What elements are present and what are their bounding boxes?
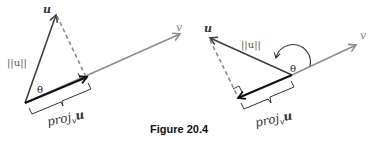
svg-text:projvu: projvu <box>46 107 86 131</box>
figure-obtuse: u v ||u|| θ projvu <box>204 22 367 132</box>
svg-text:projvu: projvu <box>254 108 294 132</box>
projection-vector <box>238 75 292 98</box>
label-u: u <box>43 3 51 16</box>
figure-caption: Figure 20.4 <box>150 123 209 135</box>
label-theta: θ <box>290 63 296 74</box>
label-norm-u: ||u|| <box>7 57 27 69</box>
label-v: v <box>176 21 183 34</box>
proj-vec: u <box>74 107 86 123</box>
proj-base: proj <box>46 110 73 129</box>
label-projection: projvu <box>46 107 86 131</box>
projection-vector <box>25 77 87 103</box>
label-u: u <box>204 22 212 35</box>
label-theta: θ <box>37 84 43 95</box>
proj-vec: u <box>282 108 294 124</box>
figure-acute: u v ||u|| θ projvu <box>7 3 183 131</box>
figure-canvas: u v ||u|| θ projvu u v ||u|| θ projvu Fi… <box>0 0 377 145</box>
vector-v <box>292 45 356 75</box>
label-projection: projvu <box>254 108 294 132</box>
proj-base: proj <box>254 111 281 130</box>
label-v: v <box>360 29 367 42</box>
dashed-perpendicular <box>57 16 86 77</box>
label-norm-u: ||u|| <box>241 39 261 51</box>
